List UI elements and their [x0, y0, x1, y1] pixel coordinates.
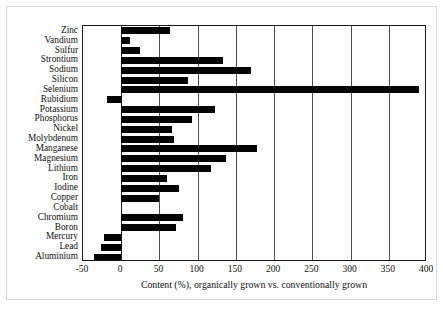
plot-area	[82, 25, 426, 261]
chart-figure: ZincVandiumSulfurStrontiumSodiumSiliconS…	[0, 0, 443, 312]
x-axis-tick-label: 400	[419, 263, 433, 275]
bar	[94, 254, 122, 261]
y-axis-tick-label: Vandium	[44, 35, 78, 45]
x-axis-tick-label: 50	[154, 263, 164, 275]
y-axis-tick-label: Silicon	[52, 74, 78, 84]
y-axis-tick-label: Selenium	[43, 84, 78, 94]
y-axis-tick-label: Strontium	[41, 54, 78, 64]
x-axis-tick-label: 250	[304, 263, 318, 275]
bar	[121, 116, 191, 123]
y-axis-tick-label: Molybdenum	[28, 133, 78, 143]
bar	[121, 185, 178, 192]
bar	[121, 106, 215, 113]
y-axis-tick-label: Cobalt	[53, 202, 78, 212]
bar	[121, 136, 174, 143]
y-axis-tick-label: Sodium	[49, 64, 78, 74]
x-axis-tick-label: -50	[76, 263, 89, 275]
y-axis-tick-label: Aluminium	[35, 251, 78, 261]
x-axis-tick-label: 200	[266, 263, 280, 275]
y-axis-tick-label: Copper	[51, 192, 78, 202]
bar	[121, 145, 257, 152]
x-axis-tick-label: 350	[381, 263, 395, 275]
y-axis-tick-label: Chromium	[38, 212, 78, 222]
x-axis-tick-label: 300	[342, 263, 356, 275]
bar	[121, 27, 170, 34]
y-axis-tick-label: Iodine	[54, 182, 78, 192]
y-axis-tick-label: Boron	[55, 222, 78, 232]
bar	[121, 224, 176, 231]
bar	[107, 96, 121, 103]
y-axis-tick-label: Zinc	[61, 25, 78, 35]
y-axis-tick-label: Iron	[63, 172, 79, 182]
figure-frame: ZincVandiumSulfurStrontiumSodiumSiliconS…	[6, 6, 437, 300]
y-axis-labels: ZincVandiumSulfurStrontiumSodiumSiliconS…	[7, 25, 80, 261]
y-axis-tick-label: Nickel	[53, 123, 78, 133]
x-axis-ticks: -50050100150200250300350400	[82, 263, 426, 277]
bar	[121, 195, 158, 202]
bar	[121, 214, 183, 221]
bar	[121, 67, 251, 74]
x-axis-tick-label: 150	[228, 263, 242, 275]
y-axis-tick-label: Potassium	[40, 104, 78, 114]
bar	[121, 155, 226, 162]
bars-layer	[83, 26, 425, 260]
x-axis-label: Content (%), organically grown vs. conve…	[82, 279, 426, 290]
bar	[121, 37, 129, 44]
y-axis-tick-label: Magnesium	[34, 153, 78, 163]
bar	[121, 57, 223, 64]
y-axis-tick-label: Rubidium	[41, 94, 78, 104]
y-axis-tick-label: Phosphorus	[35, 113, 78, 123]
bar	[121, 86, 419, 93]
y-axis-tick-label: Mercury	[46, 231, 78, 241]
bar	[121, 175, 167, 182]
bar	[121, 77, 188, 84]
bar	[121, 47, 139, 54]
bar	[101, 244, 122, 251]
y-axis-tick-label: Manganese	[36, 143, 78, 153]
bar	[121, 165, 211, 172]
x-axis-tick-label: 100	[190, 263, 204, 275]
y-axis-tick-label: Sulfur	[55, 45, 78, 55]
y-axis-tick-label: Lithium	[48, 163, 78, 173]
x-axis-tick-label: 0	[118, 263, 123, 275]
bar	[121, 126, 172, 133]
bar	[104, 234, 121, 241]
y-axis-tick-label: Lead	[59, 241, 78, 251]
